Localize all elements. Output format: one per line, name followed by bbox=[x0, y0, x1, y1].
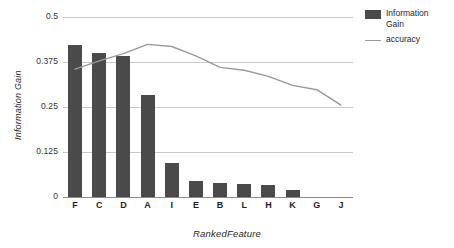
x-axis-tick-label: I bbox=[160, 200, 184, 210]
legend-swatch-icon bbox=[365, 10, 381, 19]
bar bbox=[68, 45, 82, 197]
bar bbox=[92, 53, 106, 197]
x-axis-tick-label: G bbox=[305, 200, 329, 210]
x-axis-tick-label: D bbox=[111, 200, 135, 210]
x-axis-title: RankedFeature bbox=[0, 228, 454, 239]
chart-container: Information Gain 00.1250.250.3750.5 FCDA… bbox=[0, 0, 454, 248]
bar bbox=[116, 56, 130, 197]
y-axis-tick-label: 0.25 bbox=[20, 101, 58, 111]
bar bbox=[141, 95, 155, 197]
legend-label-accuracy: accuracy bbox=[386, 34, 420, 45]
bar bbox=[286, 190, 300, 197]
gridline bbox=[63, 152, 353, 153]
x-axis-tick-label: L bbox=[232, 200, 256, 210]
x-axis-tick-label: K bbox=[281, 200, 305, 210]
bar bbox=[165, 163, 179, 197]
y-axis-tick-label: 0.125 bbox=[20, 146, 58, 156]
x-axis-baseline bbox=[63, 197, 353, 198]
chart-legend: Information Gain accuracy bbox=[365, 8, 453, 49]
bar bbox=[261, 185, 275, 197]
gridline bbox=[63, 62, 353, 63]
x-axis-tick-label: J bbox=[329, 200, 353, 210]
y-axis-tick-label: 0 bbox=[20, 191, 58, 201]
y-axis-tick-label: 0.5 bbox=[20, 11, 58, 21]
legend-label-line2: Gain bbox=[386, 19, 429, 30]
x-axis-tick-label: A bbox=[136, 200, 160, 210]
x-axis-tick-label: C bbox=[87, 200, 111, 210]
x-axis-tick-label: F bbox=[63, 200, 87, 210]
legend-line-icon bbox=[365, 36, 381, 45]
x-axis-tick-label: H bbox=[256, 200, 280, 210]
legend-item-accuracy: accuracy bbox=[365, 34, 453, 45]
legend-label-line1: Information bbox=[386, 8, 429, 19]
bar bbox=[213, 183, 227, 197]
bar bbox=[189, 181, 203, 197]
bar bbox=[237, 184, 251, 197]
legend-item-information-gain: Information Gain bbox=[365, 8, 453, 30]
gridline bbox=[63, 17, 353, 18]
gridline bbox=[63, 107, 353, 108]
y-axis-tick-label: 0.375 bbox=[20, 56, 58, 66]
x-axis-tick-label: B bbox=[208, 200, 232, 210]
x-axis-tick-label: E bbox=[184, 200, 208, 210]
legend-label-information-gain: Information Gain bbox=[386, 8, 429, 30]
